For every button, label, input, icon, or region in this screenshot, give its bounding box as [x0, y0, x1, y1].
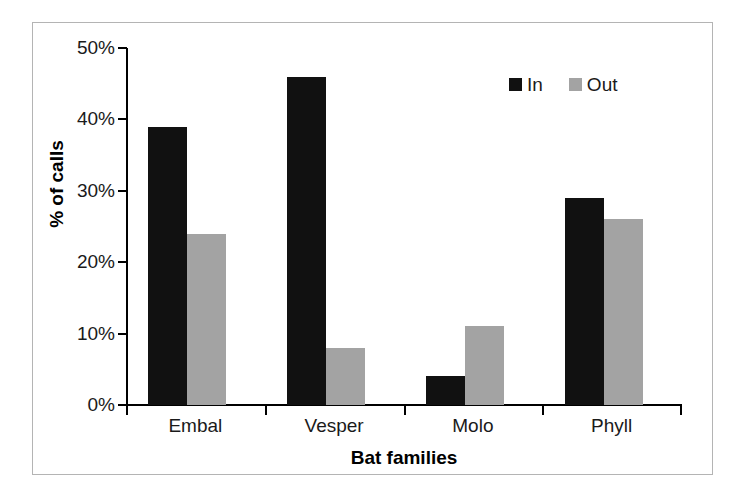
- chart-figure-frame: % of calls 0%10%20%30%40%50% EmbalVesper…: [32, 22, 713, 475]
- x-axis-category-label: Embal: [135, 415, 255, 437]
- bar-embal-in: [148, 127, 187, 405]
- y-axis-tick: [118, 190, 127, 192]
- x-axis-tick: [404, 406, 406, 415]
- y-axis-tick: [118, 261, 127, 263]
- y-axis-tick-label: 50%: [37, 38, 115, 57]
- y-axis-tick-label: 10%: [37, 324, 115, 343]
- bar-phyll-out: [604, 219, 643, 405]
- legend-item-out: Out: [569, 75, 618, 94]
- y-axis-tick-label: 0%: [37, 395, 115, 414]
- bar-molo-out: [465, 326, 504, 405]
- bar-vesper-in: [287, 77, 326, 405]
- black-square-swatch: [509, 78, 522, 91]
- bar-phyll-in: [565, 198, 604, 405]
- y-axis-tick-label: 30%: [37, 181, 115, 200]
- plot-area: % of calls 0%10%20%30%40%50% EmbalVesper…: [33, 23, 712, 474]
- legend-label: Out: [587, 75, 618, 94]
- x-axis-tick: [265, 406, 267, 415]
- x-axis-tick: [542, 406, 544, 415]
- legend-label: In: [527, 75, 543, 94]
- bar-vesper-out: [326, 348, 365, 405]
- chart-legend: InOut: [509, 75, 617, 94]
- y-axis-tick: [118, 47, 127, 49]
- gray-square-swatch: [569, 78, 582, 91]
- x-axis-title: Bat families: [126, 447, 682, 469]
- x-axis-tick: [680, 406, 682, 415]
- bar-embal-out: [187, 234, 226, 405]
- x-axis-category-label: Vesper: [274, 415, 394, 437]
- x-axis-tick: [126, 406, 128, 415]
- x-axis-category-label: Phyll: [552, 415, 672, 437]
- y-axis-tick-label: 20%: [37, 252, 115, 271]
- y-axis-tick: [118, 333, 127, 335]
- y-axis-line: [126, 48, 128, 406]
- legend-item-in: In: [509, 75, 543, 94]
- bar-molo-in: [426, 376, 465, 405]
- y-axis-tick: [118, 118, 127, 120]
- x-axis-category-label: Molo: [413, 415, 533, 437]
- y-axis-tick-label: 40%: [37, 109, 115, 128]
